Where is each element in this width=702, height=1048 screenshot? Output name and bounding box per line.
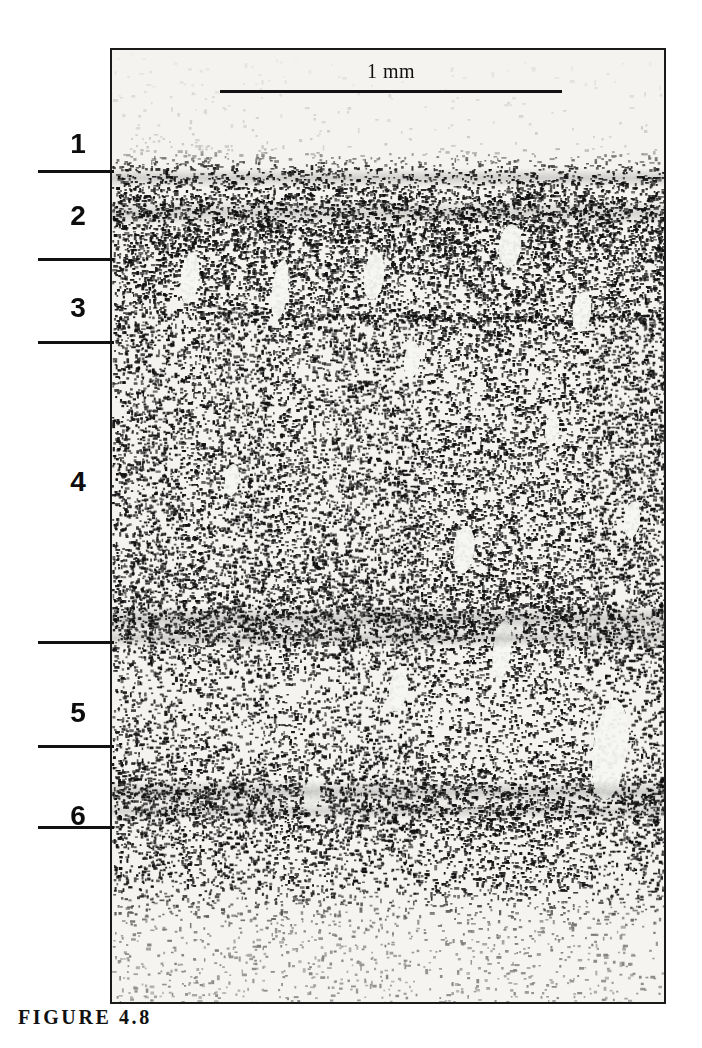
layer-label-6: 6 — [58, 800, 98, 832]
scale-bar-label: 1 mm — [220, 60, 562, 83]
figure-caption: FIGURE 4.8 — [18, 1006, 152, 1029]
layer-label-4: 4 — [58, 466, 98, 498]
layer-tick-4 — [38, 641, 114, 644]
layer-label-1: 1 — [58, 128, 98, 160]
scale-bar: 1 mm — [220, 60, 562, 100]
layer-tick-5 — [38, 745, 114, 748]
layer-tick-2 — [38, 258, 114, 261]
layer-label-3: 3 — [58, 292, 98, 324]
layer-label-5: 5 — [58, 697, 98, 729]
cortex-micrograph-image — [112, 50, 664, 1002]
micrograph-panel: 1 mm — [110, 48, 666, 1004]
layer-tick-1 — [38, 170, 114, 173]
layer-label-2: 2 — [58, 200, 98, 232]
scale-bar-line — [220, 90, 562, 93]
figure-page: 1 mm 123456 FIGURE 4.8 — [0, 0, 702, 1048]
layer-tick-3 — [38, 341, 114, 344]
